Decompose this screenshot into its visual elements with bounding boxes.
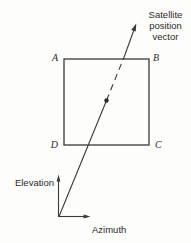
corner-label-c: C (155, 139, 162, 150)
satellite-vector-arrow-shaft (125, 27, 136, 56)
satellite-vector-arrowhead-icon (131, 24, 136, 32)
satellite-label-line1: Satellite (149, 9, 183, 20)
satellite-vector-line-dashed (107, 56, 125, 101)
elevation-axis-label: Elevation (15, 177, 54, 188)
corner-label-b: B (153, 52, 159, 63)
corner-label-a: A (51, 52, 59, 63)
corner-label-d: D (50, 139, 59, 150)
satellite-label-line3: vector (153, 31, 179, 42)
azimuth-arrowhead-icon (84, 215, 91, 219)
satellite-point-dot (104, 98, 108, 102)
satellite-label-line2: position (149, 20, 182, 31)
satellite-vector-line-solid (59, 101, 107, 217)
diagram-canvas: A B C D Satellite position vector Elevat… (0, 0, 191, 243)
elevation-arrowhead-icon (57, 175, 61, 182)
azimuth-axis-label: Azimuth (92, 224, 126, 235)
satellite-vector-diagram: A B C D Satellite position vector Elevat… (0, 0, 191, 243)
